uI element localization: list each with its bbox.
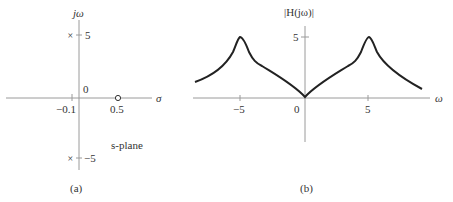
- xtick-label-m5: −5: [233, 103, 245, 115]
- tick-label-m01: −0.1: [56, 103, 76, 115]
- caption-b: (b): [300, 182, 313, 195]
- magnitude-axis-label: |H(jω)|: [284, 6, 314, 19]
- ytick-label-5: 5: [293, 31, 299, 43]
- pole-lower-icon: ×: [68, 153, 74, 164]
- magnitude-curve: [195, 37, 422, 97]
- figure: jω σ × × 5 −5 0 −0.1 0.5 s-plane (a) |H(…: [0, 0, 453, 202]
- tick-label-5: 5: [85, 29, 91, 41]
- caption-a: (a): [70, 182, 83, 195]
- zero-icon: [115, 95, 120, 100]
- sigma-axis-label: σ: [156, 92, 162, 104]
- xtick-label-5: 5: [365, 103, 371, 115]
- s-plane-panel: jω σ × × 5 −5 0 −0.1 0.5 s-plane (a): [6, 7, 162, 195]
- xtick-label-0: 0: [294, 103, 300, 115]
- magnitude-panel: |H(jω)| ω 5 −5 0 5 (b): [193, 6, 443, 195]
- s-plane-note: s-plane: [111, 139, 143, 151]
- tick-label-05: 0.5: [110, 103, 124, 115]
- tick-label-0: 0: [83, 83, 89, 95]
- omega-axis-label: ω: [435, 92, 443, 104]
- jw-axis-label: jω: [71, 7, 84, 19]
- pole-upper-icon: ×: [68, 30, 74, 41]
- tick-label-m5: −5: [84, 152, 96, 164]
